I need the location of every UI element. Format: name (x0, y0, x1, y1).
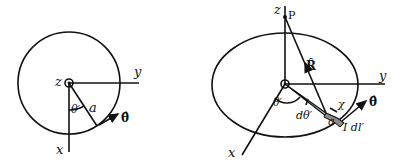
label-radius-a: a (328, 115, 335, 128)
x-axis (242, 84, 285, 155)
right-figure: z P R̂ y x θ′ dθ′ a χ θ̂ I dl′ (212, 2, 387, 160)
label-theta-prime: θ′ (71, 103, 81, 116)
label-y: y (378, 68, 387, 83)
label-theta-prime: θ′ (273, 96, 283, 109)
label-x: x (228, 145, 236, 160)
label-z: z (54, 74, 62, 89)
origin-dot (284, 83, 287, 86)
label-current-element: I dl′ (342, 121, 364, 134)
label-theta-hat: θ̂ (369, 95, 377, 109)
left-figure: z y x θ′ a θ̂ (18, 32, 142, 157)
diagram-canvas: z y x θ′ a θ̂ z P R̂ y x θ′ dθ′ a χ θ̂ I… (0, 0, 403, 163)
label-R-hat: R̂ (306, 58, 317, 73)
label-P: P (288, 9, 296, 22)
label-x: x (56, 142, 64, 157)
label-y: y (133, 64, 142, 79)
label-dtheta-prime: dθ′ (296, 109, 313, 122)
chi-angle-mark (330, 108, 337, 112)
label-z: z (273, 2, 281, 17)
label-radius-a: a (89, 100, 97, 115)
label-chi: χ (337, 98, 346, 111)
label-theta-hat: θ̂ (121, 111, 129, 125)
